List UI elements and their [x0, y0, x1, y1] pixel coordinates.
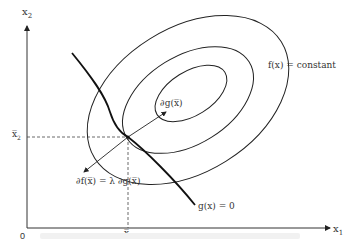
grad-f-arrow [84, 137, 128, 172]
level-set-middle [104, 25, 273, 176]
level-set-outer [57, 0, 320, 219]
constraint-label: g(x) = 0 [198, 201, 235, 211]
x2-bar-label: x̅2 [12, 129, 21, 141]
figure-caption-illegible [40, 233, 300, 239]
y-axis-label: x2 [22, 6, 32, 20]
grad-g-arrow [128, 112, 166, 137]
grad-f-label: ∂f(x̅) = λ ∂g(x̅) [76, 176, 140, 186]
origin-label: 0 [20, 231, 25, 241]
grad-g-label: ∂g(x̅) [160, 98, 183, 108]
x-axis-label: x1 [333, 223, 343, 237]
tangent-point [126, 135, 129, 138]
objective-label: f(x) = constant [268, 60, 336, 70]
level-set-inner [145, 54, 236, 134]
diagram-canvas [0, 0, 348, 243]
